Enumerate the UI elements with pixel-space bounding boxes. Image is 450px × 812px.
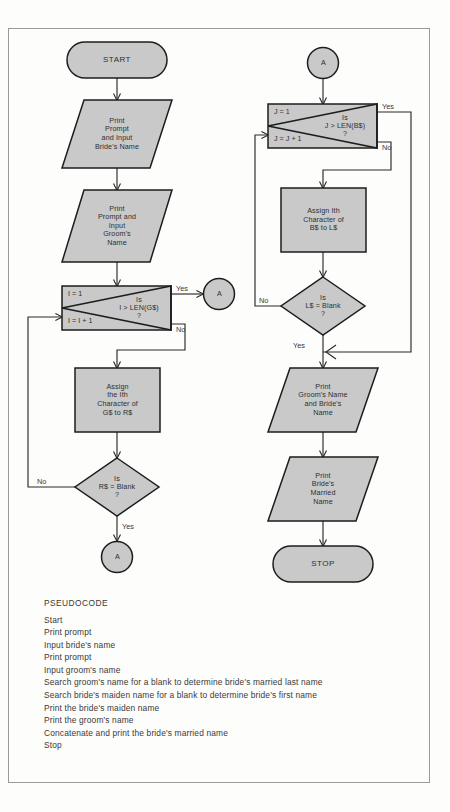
pseudocode-line: Input groom's name [44, 664, 414, 677]
pseudocode-line: Concatenate and print the bride's marrie… [44, 727, 414, 740]
pseudocode-line: Search bride's maiden name for a blank t… [44, 689, 414, 702]
label-loop-bride-yes: Yes [382, 102, 394, 111]
label-loop-groom-increment: I = I + 1 [68, 316, 92, 325]
page-background: START Print Prompt and Input Bride's Nam… [0, 0, 450, 812]
pseudocode-block: PSEUDOCODE Start Print prompt Input brid… [44, 598, 414, 752]
label-loop-bride-condition: Is J > LEN(B$) ? [314, 104, 376, 148]
pseudocode-heading: PSEUDOCODE [44, 598, 414, 608]
label-start: START [67, 42, 167, 78]
label-loop-bride-increment: J = J + 1 [274, 134, 302, 143]
pseudocode-line: Search groom's name for a blank to deter… [44, 676, 414, 689]
label-assign-bride: Assign Ith Character of B$ to L$ [281, 188, 366, 252]
label-loop-groom-yes: Yes [176, 284, 188, 293]
pseudocode-line: Stop [44, 739, 414, 752]
label-loop-bride-init: J = 1 [274, 107, 290, 116]
label-input-bride: Print Prompt and Input Bride's Name [62, 100, 172, 168]
pseudocode-line: Input bride's name [44, 639, 414, 652]
pseudocode-line: Start [44, 614, 414, 627]
label-loop-groom-init: I = 1 [68, 289, 82, 298]
label-connector-a-right: A [204, 279, 235, 310]
label-decision-rs-yes: Yes [122, 522, 134, 531]
label-stop: STOP [273, 546, 373, 582]
pseudocode-line: Print the groom's name [44, 714, 414, 727]
label-print-names: Print Groom's Name and Bride's Name [268, 368, 378, 432]
label-decision-ls-yes: Yes [293, 341, 305, 350]
label-print-married: Print Bride's Married Name [268, 457, 378, 521]
label-loop-groom-no: No [176, 325, 185, 334]
label-loop-bride-no: No [382, 143, 391, 152]
label-decision-rs-blank: Is R$ = Blank ? [76, 463, 158, 511]
label-decision-ls-blank: Is L$ = Blank ? [282, 282, 364, 330]
label-assign-groom: Assign the Ith Character of G$ to R$ [75, 368, 160, 432]
pseudocode-line: Print prompt [44, 626, 414, 639]
pseudocode-line: Print the bride's maiden name [44, 702, 414, 715]
label-decision-rs-no: No [37, 477, 46, 486]
label-connector-a-top: A [308, 48, 339, 79]
label-loop-groom-condition: Is I > LEN(G$) ? [108, 286, 170, 330]
label-connector-a-bottom: A [102, 542, 133, 573]
pseudocode-line: Print prompt [44, 651, 414, 664]
label-input-groom: Print Prompt and Input Groom's Name [62, 190, 172, 262]
label-decision-ls-no: No [259, 296, 268, 305]
